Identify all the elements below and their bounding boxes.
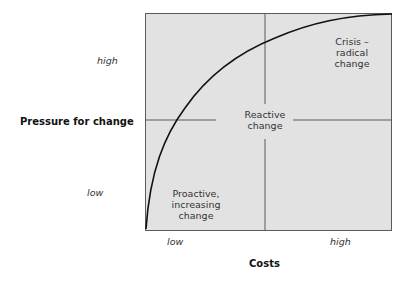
region-reactive: Reactive change (232, 109, 298, 131)
y-tick-low: low (87, 187, 103, 198)
region-crisis-line: radical (322, 47, 382, 58)
region-proactive-line: Proactive, (166, 188, 226, 199)
y-tick-high: high (97, 55, 118, 66)
region-crisis-line: change (322, 58, 382, 69)
region-crisis: Crisis – radical change (322, 36, 382, 69)
region-crisis-line: Crisis – (322, 36, 382, 47)
x-axis-label: Costs (249, 258, 280, 269)
region-proactive-line: increasing (166, 199, 226, 210)
region-proactive-line: change (166, 210, 226, 221)
region-reactive-line: change (232, 120, 298, 131)
region-reactive-line: Reactive (232, 109, 298, 120)
x-tick-low: low (167, 236, 183, 247)
y-axis-label: Pressure for change (20, 116, 134, 127)
x-tick-high: high (330, 236, 351, 247)
region-proactive: Proactive, increasing change (166, 188, 226, 221)
